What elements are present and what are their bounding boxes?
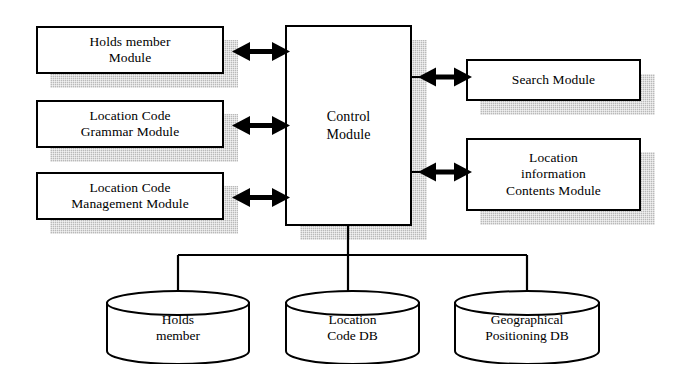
holds-member-module-label: Holds member Module	[85, 34, 174, 67]
holds-member-module[interactable]: Holds member Module	[36, 26, 224, 74]
location-code-management-module-label: Location Code Management Module	[67, 180, 193, 213]
control-module[interactable]: Control Module	[285, 25, 412, 226]
location-information-contents-module-label: Location information Contents Module	[502, 150, 605, 199]
diagram-canvas: Holds member Module Location Code Gramma…	[0, 0, 685, 384]
geographical-positioning-db-label: Geographical Positioning DB	[453, 312, 601, 345]
location-code-grammar-module[interactable]: Location Code Grammar Module	[36, 100, 224, 148]
control-module-label: Control Module	[322, 108, 374, 142]
arrow-management-to-control	[232, 188, 290, 207]
search-module-label: Search Module	[508, 72, 599, 88]
location-code-management-module[interactable]: Location Code Management Module	[36, 172, 224, 220]
location-information-contents-module[interactable]: Location information Contents Module	[466, 138, 641, 211]
arrow-grammar-to-control	[232, 116, 290, 135]
location-code-db[interactable]: Location Code DB	[284, 290, 421, 364]
holds-member-db[interactable]: Holds member	[105, 290, 251, 364]
holds-member-db-label: Holds member	[105, 312, 251, 345]
location-code-grammar-module-label: Location Code Grammar Module	[77, 108, 184, 141]
geographical-positioning-db[interactable]: Geographical Positioning DB	[453, 290, 601, 364]
arrow-holds-member-to-control	[232, 42, 290, 61]
search-module[interactable]: Search Module	[466, 59, 641, 101]
location-code-db-label: Location Code DB	[284, 312, 421, 345]
